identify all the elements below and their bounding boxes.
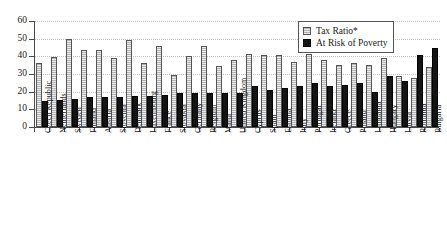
x-axis-label: Estonia: [285, 108, 293, 133]
legend-item-at-risk-of-poverty: At Risk of Poverty: [303, 37, 388, 49]
x-axis-label: Poland: [360, 110, 368, 133]
x-axis-labels: Czech RepublicNetherlandsSwedenFinlandAu…: [34, 133, 439, 233]
y-tick-label: 60: [18, 16, 28, 26]
x-axis-label: Luxembourg: [150, 91, 158, 133]
x-axis-label: Germany: [195, 103, 203, 133]
x-axis-label: Ireland: [330, 110, 338, 133]
x-axis-label: Italy: [300, 118, 308, 133]
x-axis-label: Romania: [420, 103, 428, 133]
x-axis-label: Austria: [105, 109, 113, 133]
x-axis-label: Belgium: [210, 105, 218, 133]
y-tick-label: 0: [22, 122, 27, 132]
x-axis-label: Finland: [90, 108, 98, 133]
x-axis-label: Denmark: [135, 103, 143, 133]
x-axis-label: United Kingdom: [240, 78, 248, 133]
x-axis-label: Spain: [270, 114, 278, 133]
x-axis-label: Greece: [345, 110, 353, 133]
x-axis-label: Lithuania: [375, 101, 383, 133]
x-axis-label: Slovenia: [120, 104, 128, 133]
bar-chart: 0102030405060 Czech RepublicNetherlandsS…: [0, 0, 447, 235]
x-axis-label: Netherlands: [60, 93, 68, 133]
x-axis-label: Latvia: [405, 112, 413, 133]
x-axis-label: Hungary: [390, 104, 398, 133]
y-tick-label: 20: [18, 87, 28, 97]
legend-item-tax-ratio: Tax Ratio*: [303, 25, 388, 37]
y-axis: 0102030405060: [0, 0, 34, 150]
legend-swatch-tax-ratio: [303, 27, 311, 35]
x-axis-label: France: [165, 111, 173, 133]
x-axis-label: Bulgaria: [435, 105, 443, 133]
x-axis-label: Portugal: [315, 105, 323, 133]
x-axis-label: Czech Republic: [45, 81, 53, 133]
legend-label-tax-ratio: Tax Ratio*: [316, 26, 358, 36]
x-axis-label: Slovakia: [180, 104, 188, 133]
legend-label-at-risk-of-poverty: At Risk of Poverty: [316, 38, 388, 48]
y-tick-label: 50: [18, 34, 28, 44]
x-axis-label: Malta: [225, 114, 233, 133]
chart-legend: Tax Ratio* At Risk of Poverty: [298, 21, 394, 53]
x-axis-label: Sweden: [75, 107, 83, 133]
y-tick-label: 10: [18, 104, 28, 114]
x-axis-label: Cyprus: [255, 109, 263, 133]
y-tick-label: 30: [18, 69, 28, 79]
x-tick-mark: [34, 128, 35, 132]
y-tick-label: 40: [18, 51, 28, 61]
legend-swatch-at-risk-of-poverty: [303, 39, 311, 47]
